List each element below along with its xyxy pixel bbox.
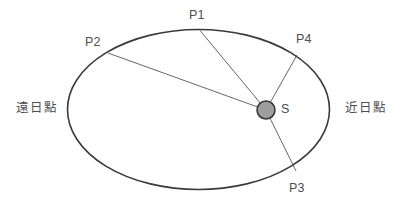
perihelion-label: 近日點 — [345, 102, 388, 115]
radius-line-sun-to-p3 — [266, 110, 296, 171]
sun-label: S — [281, 103, 289, 116]
point-label-p4: P4 — [296, 33, 312, 46]
orbit-ellipse — [68, 30, 330, 190]
orbit-diagram: P1 P2 P3 P4 S 遠日點 近日點 — [0, 0, 398, 206]
point-label-p1: P1 — [189, 9, 205, 22]
point-label-p2: P2 — [85, 36, 101, 49]
point-label-p3: P3 — [289, 182, 305, 195]
sun-marker — [257, 101, 275, 119]
aphelion-label: 遠日點 — [16, 102, 59, 115]
orbit-diagram-canvas — [0, 0, 398, 206]
